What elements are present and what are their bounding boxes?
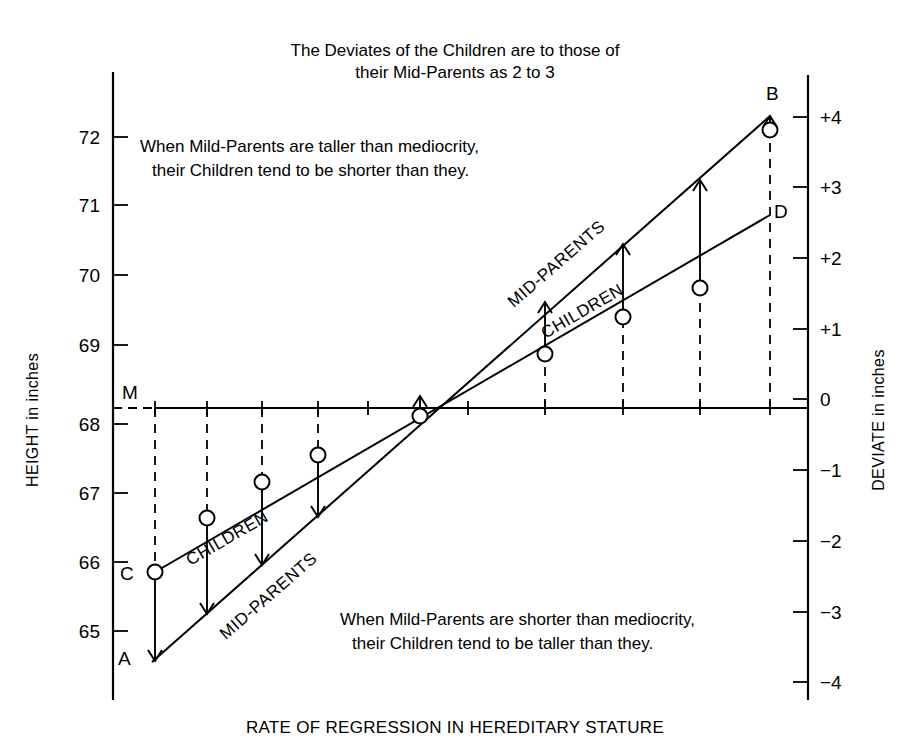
regression-arrow-upper-3 bbox=[693, 180, 707, 288]
data-point-B bbox=[763, 123, 778, 138]
right-axis-title: DEVIATE in inches bbox=[870, 349, 887, 491]
curve-label-midparents-lower: MID-PARENTS bbox=[216, 549, 321, 644]
regression-arrow-upper-2 bbox=[616, 244, 630, 317]
data-point-6 bbox=[538, 347, 553, 362]
right-tick-minus1: −1 bbox=[820, 460, 842, 481]
left-tick-71: 71 bbox=[79, 195, 100, 216]
right-tick-minus4: −4 bbox=[820, 672, 842, 693]
children-data-points bbox=[148, 123, 778, 580]
data-point-5 bbox=[413, 409, 428, 424]
data-point-7 bbox=[616, 310, 631, 325]
left-tick-67: 67 bbox=[79, 483, 100, 504]
regression-arrow-lower-2 bbox=[200, 518, 214, 614]
right-tick-minus3: −3 bbox=[820, 602, 842, 623]
right-tick-plus2: +2 bbox=[820, 248, 842, 269]
point-label-M: M bbox=[122, 382, 138, 403]
point-label-A: A bbox=[118, 648, 131, 669]
regression-arrow-lower-4 bbox=[311, 455, 325, 517]
left-axis-tick-labels: 72 71 70 69 68 67 66 65 bbox=[79, 127, 100, 642]
left-tick-70: 70 bbox=[79, 265, 100, 286]
right-axis-ticks bbox=[793, 117, 808, 682]
annotation-bottom-line1: When Mild-Parents are shorter than medio… bbox=[340, 610, 695, 629]
data-point-8 bbox=[693, 281, 708, 296]
right-tick-plus1: +1 bbox=[820, 319, 842, 340]
regression-arrow-lower-1 bbox=[148, 572, 162, 661]
data-point-2 bbox=[200, 511, 215, 526]
annotation-bottom-line2: their Children tend to be taller than th… bbox=[352, 634, 653, 653]
right-tick-zero: 0 bbox=[820, 389, 831, 410]
midparents-regression-line bbox=[152, 116, 770, 662]
right-axis-tick-labels: +4 +3 +2 +1 0 −1 −2 −3 −4 bbox=[820, 107, 842, 693]
left-tick-65: 65 bbox=[79, 621, 100, 642]
point-label-B: B bbox=[766, 83, 779, 104]
left-tick-68: 68 bbox=[79, 414, 100, 435]
x-axis-title: RATE OF REGRESSION IN HEREDITARY STATURE bbox=[246, 718, 664, 737]
left-tick-66: 66 bbox=[79, 552, 100, 573]
data-point-4 bbox=[311, 448, 326, 463]
right-tick-plus3: +3 bbox=[820, 177, 842, 198]
point-label-C: C bbox=[120, 563, 134, 584]
point-label-D: D bbox=[774, 201, 788, 222]
annotation-top-line1: When Mild-Parents are taller than medioc… bbox=[140, 137, 479, 156]
chart-title-line1: The Deviates of the Children are to thos… bbox=[291, 41, 620, 60]
chart-title-line2: their Mid-Parents as 2 to 3 bbox=[355, 63, 554, 82]
annotation-top-line2: their Children tend to be shorter than t… bbox=[152, 161, 469, 180]
right-tick-plus4: +4 bbox=[820, 107, 842, 128]
galton-regression-figure: The Deviates of the Children are to thos… bbox=[0, 0, 910, 746]
data-point-3 bbox=[255, 475, 270, 490]
deviation-dashed-connectors-upper bbox=[545, 133, 770, 408]
data-point-C bbox=[148, 565, 163, 580]
left-tick-72: 72 bbox=[79, 127, 100, 148]
right-tick-minus2: −2 bbox=[820, 531, 842, 552]
deviation-dashed-connectors-lower bbox=[155, 408, 318, 572]
left-tick-69: 69 bbox=[79, 335, 100, 356]
left-axis-title: HEIGHT in inches bbox=[24, 353, 41, 487]
